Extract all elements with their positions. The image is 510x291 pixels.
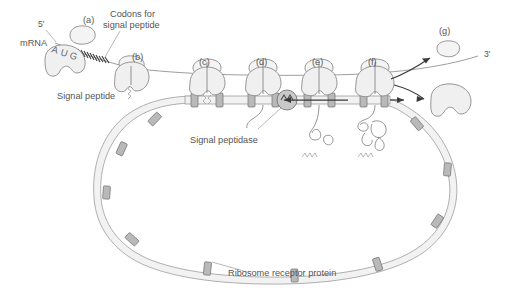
cleaved-signal-peptide-f	[358, 153, 373, 157]
receptor-c-right	[216, 93, 223, 107]
stage-label-b: (b)	[132, 52, 143, 62]
stage-label-f: (f)	[368, 57, 377, 67]
receptor-loop-2	[116, 141, 128, 156]
large-subunit-g	[431, 84, 471, 116]
receptor-loop-9	[443, 163, 451, 177]
codons-leader	[105, 31, 120, 57]
folding-protein-e	[310, 105, 333, 145]
receptor-loop-3	[103, 186, 111, 199]
ribosome-stage-b	[115, 56, 149, 99]
er-membrane-band	[94, 96, 457, 284]
signal-peptide-label: Signal peptide	[57, 91, 115, 101]
signal-peptide-zigzag-b	[128, 86, 131, 99]
ribosome-stage-f	[356, 59, 394, 157]
lateral-arrow-head-right	[397, 97, 404, 103]
small-subunit-a	[70, 26, 95, 44]
codons-for-label-line1: Codons for	[110, 9, 155, 19]
small-subunit-g	[437, 41, 460, 57]
ribosome-stage-d	[246, 59, 281, 128]
cotranslational-translocation-diagram: mRNA 5' 3' A U G Codons for signal pepti…	[0, 0, 510, 291]
stage-label-a: (a)	[83, 15, 94, 25]
er-membrane-group	[94, 96, 457, 284]
receptor-loop-5	[203, 262, 211, 276]
diagram-canvas: mRNA 5' 3' A U G Codons for signal pepti…	[0, 0, 510, 291]
codons-for-label-line2: signal peptide	[103, 20, 160, 30]
ribosome-receptor-proteins	[103, 93, 452, 282]
ribosome-stage-e	[302, 59, 337, 157]
nascent-chain-lumen-d	[247, 105, 263, 128]
folding-protein-f	[358, 105, 386, 150]
mrna-label: mRNA	[20, 38, 48, 48]
stage-label-e: (e)	[312, 57, 323, 67]
large-subunit-b	[115, 62, 149, 92]
text-labels: mRNA 5' 3' A U G Codons for signal pepti…	[20, 9, 491, 278]
signal-peptidase-label: Signal peptidase	[190, 135, 258, 145]
five-prime-leader	[46, 30, 56, 42]
five-prime-label: 5'	[38, 19, 45, 29]
cleaved-signal-peptide-e	[302, 153, 317, 157]
release-arrow-large-subunit	[394, 85, 424, 99]
receptor-loop-1	[148, 112, 162, 126]
receptor-loop-4	[125, 232, 139, 246]
stage-label-d: (d)	[256, 57, 267, 67]
stage-label-c: (c)	[199, 57, 210, 67]
ribosome-receptor-label: Ribosome receptor protein	[228, 268, 336, 278]
three-prime-label: 3'	[484, 49, 491, 59]
stage-label-g: (g)	[439, 26, 450, 36]
